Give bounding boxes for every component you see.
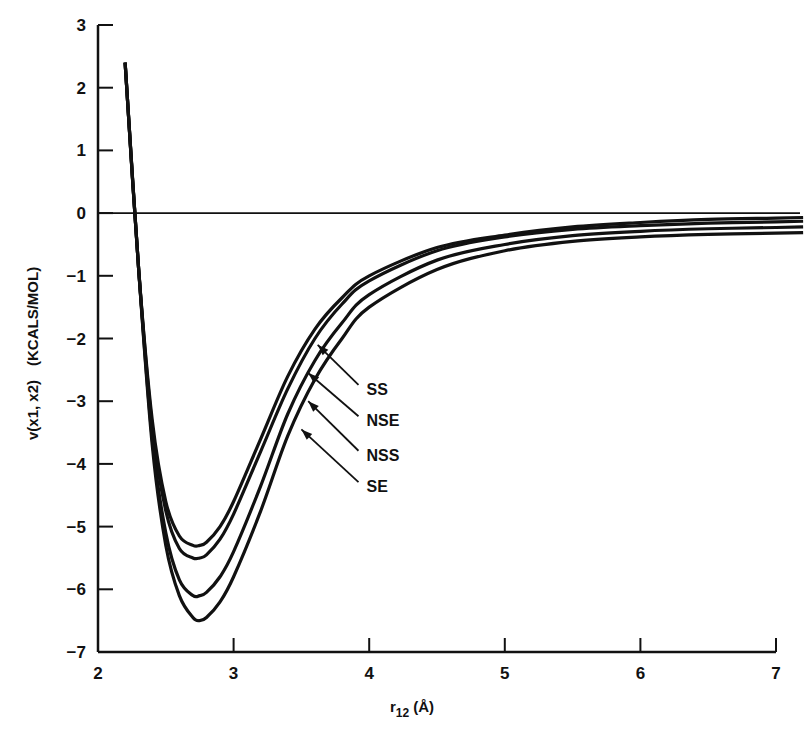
y-tick-label: −6 bbox=[67, 580, 86, 599]
annotation-arrow-line bbox=[301, 429, 358, 482]
x-tick-label: 3 bbox=[229, 664, 238, 683]
curve-se bbox=[125, 63, 803, 621]
curve-ss bbox=[125, 63, 803, 547]
potential-energy-chart: 3210−1−2−3−4−5−6−7234567 SSNSENSSSE r12(… bbox=[0, 0, 810, 737]
x-tick-label: 7 bbox=[771, 664, 780, 683]
y-axis-title: v(x1, x2)(KCALS/MOL) bbox=[24, 267, 41, 440]
x-axis-title: r12(Å) bbox=[390, 698, 434, 720]
x-tick-label: 2 bbox=[93, 664, 102, 683]
series-label-ss: SS bbox=[366, 381, 388, 398]
x-tick-label: 6 bbox=[636, 664, 645, 683]
y-tick-label: −7 bbox=[67, 643, 86, 662]
curve-nse bbox=[125, 63, 803, 559]
x-tick-label: 4 bbox=[364, 664, 374, 683]
series-annotations: SSNSENSSSE bbox=[301, 345, 399, 495]
y-tick-label: −1 bbox=[67, 267, 86, 286]
series-label-nss: NSS bbox=[366, 447, 399, 464]
series-label-se: SE bbox=[366, 478, 388, 495]
x-tick-label: 5 bbox=[500, 664, 509, 683]
y-tick-label: 1 bbox=[77, 141, 86, 160]
series-label-nse: NSE bbox=[366, 412, 399, 429]
y-tick-label: −3 bbox=[67, 392, 86, 411]
y-tick-label: 2 bbox=[77, 79, 86, 98]
curves bbox=[125, 63, 803, 621]
y-tick-label: −5 bbox=[67, 518, 86, 537]
y-tick-label: −2 bbox=[67, 330, 86, 349]
y-tick-label: 3 bbox=[77, 16, 86, 35]
y-tick-label: 0 bbox=[77, 204, 86, 223]
y-tick-label: −4 bbox=[67, 455, 87, 474]
